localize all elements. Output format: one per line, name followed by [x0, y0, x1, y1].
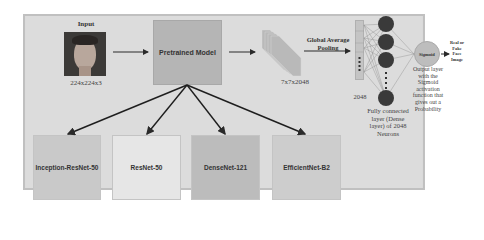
- backbone-label: Inception-ResNet-50: [36, 164, 99, 171]
- output-result-line4: Image: [444, 57, 470, 63]
- backbone-label: DenseNet-121: [204, 164, 247, 171]
- face-neck: [79, 66, 91, 76]
- output-result: Real or Fake Face Image: [444, 40, 470, 62]
- feature-map-dimension: 7x7x2048: [270, 78, 320, 86]
- backbone-box-resnet-50: ResNet-50: [112, 135, 181, 200]
- dense-caption-line4: Neurons: [362, 130, 414, 138]
- output-caption: Output layer with the Sigmoid activation…: [404, 66, 452, 112]
- feature-vector-dimension: 2048: [350, 93, 370, 100]
- output-caption-line2: with the: [404, 73, 452, 80]
- sigmoid-label: Sigmoid: [419, 52, 435, 57]
- input-title: Input: [66, 20, 106, 28]
- sigmoid-node: Sigmoid: [414, 41, 440, 67]
- output-caption-line4: activation: [404, 86, 452, 93]
- output-caption-line6: gives out a: [404, 99, 452, 106]
- pooling-label: Global Average Pooling: [302, 36, 354, 52]
- backbone-box-densenet-121: DenseNet-121: [191, 135, 260, 200]
- feature-vector: [355, 20, 364, 80]
- backbone-label: EfficientNet-B2: [283, 164, 330, 171]
- pooling-label-line2: Pooling: [302, 44, 354, 52]
- output-caption-line1: Output layer: [404, 66, 452, 73]
- backbone-label: ResNet-50: [131, 164, 163, 171]
- backbone-box-efficientnet-b2: EfficientNet-B2: [272, 135, 341, 200]
- pretrained-model-box: Pretrained Model: [153, 20, 222, 85]
- pooling-label-line1: Global Average: [302, 36, 354, 44]
- backbone-box-inception-resnet-50: Inception-ResNet-50: [33, 135, 101, 200]
- pretrained-model-label: Pretrained Model: [159, 49, 216, 56]
- dense-caption-line3: layer) of 2048: [362, 122, 414, 130]
- face-hair: [72, 35, 98, 45]
- output-caption-line7: Probability: [404, 106, 452, 113]
- input-dimension: 224x224x3: [60, 79, 112, 87]
- output-caption-line3: Sigmoid: [404, 79, 452, 86]
- output-caption-line5: function that: [404, 92, 452, 99]
- input-face-image: [64, 32, 106, 76]
- dense-caption-line2: layer (Dense: [362, 115, 414, 123]
